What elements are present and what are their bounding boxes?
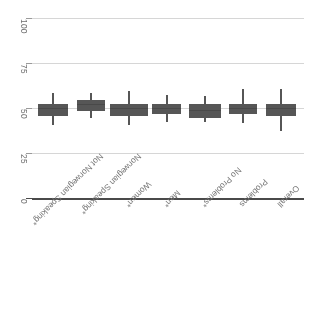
median-line [153, 108, 182, 109]
median-line [266, 108, 296, 109]
median-line [229, 108, 257, 109]
median-line [38, 108, 68, 109]
boxplot-item [38, 0, 68, 311]
chart-figure: 0255075100 OverallProblemsNo Problems*Me… [0, 0, 322, 311]
box-iqr [266, 104, 296, 117]
box-iqr [153, 104, 182, 115]
y-tick-label-25: 25 [19, 154, 29, 164]
box-iqr [77, 100, 105, 111]
median-line [110, 108, 148, 109]
box-iqr [38, 104, 68, 117]
median-line [77, 104, 105, 105]
boxplot-item [110, 0, 148, 311]
y-tick-label-0: 0 [19, 199, 29, 204]
box-iqr [229, 104, 257, 115]
y-tick-label-75: 75 [19, 64, 29, 74]
box-iqr [110, 104, 148, 117]
y-tick-label-50: 50 [19, 109, 29, 119]
plot-area: 0255075100 OverallProblemsNo Problems*Me… [0, 0, 322, 311]
median-line [189, 110, 221, 111]
y-tick-label-100: 100 [19, 19, 29, 34]
